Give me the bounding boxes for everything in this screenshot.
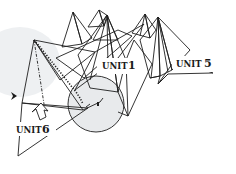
unit1-label-num: 1	[128, 59, 136, 72]
unit6-label-num: 6	[42, 123, 50, 136]
unit6-label-word: UNIT	[16, 125, 42, 135]
origami-assembly-diagram: UNIT 1 UNIT 5 UNIT 6	[0, 0, 236, 174]
fold-mark	[97, 102, 99, 106]
unit5-label-num: 5	[204, 57, 212, 70]
unit1-label-word: UNIT	[102, 61, 128, 71]
unit5-label-word: UNIT	[176, 59, 202, 69]
